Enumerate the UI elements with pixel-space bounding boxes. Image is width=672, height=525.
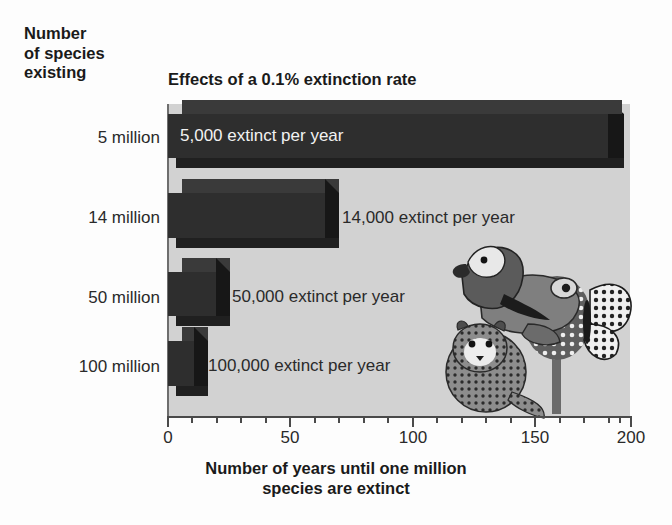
bar-1-top-face [182, 179, 339, 193]
bar-3 [168, 341, 194, 386]
x-tick-minor-180 [608, 416, 610, 423]
x-tick-minor-170 [583, 416, 585, 423]
x-tick-major-200 [630, 416, 632, 427]
x-tick-minor-60 [314, 416, 316, 423]
bar-3-front-face [168, 341, 194, 386]
bar-label-3: 100,000 extinct per year [208, 356, 390, 376]
x-tick-minor-140 [510, 416, 512, 423]
x-tick-label-150: 150 [521, 428, 549, 448]
x-tick-major-0 [167, 416, 169, 427]
bar-2-base-shadow [176, 316, 230, 326]
x-tick-label-50: 50 [281, 428, 300, 448]
endangered-species-illustration [424, 232, 636, 422]
x-tick-minor-90 [387, 416, 389, 423]
x-axis-title-line-2: species are extinct [0, 478, 672, 498]
x-tick-minor-70 [338, 416, 340, 423]
bar-1-top-right-bevel [325, 179, 339, 193]
x-tick-minor-80 [363, 416, 365, 423]
bar-1 [168, 193, 325, 238]
x-tick-major-50 [289, 416, 291, 427]
y-axis-title-line-2: of species [24, 44, 174, 64]
category-label-1: 14 million [10, 208, 160, 228]
bar-1-front-face [168, 193, 325, 238]
x-tick-major-150 [534, 416, 536, 427]
x-tick-label-200: 200 [617, 428, 645, 448]
x-axis-title: Number of years until one million specie… [0, 458, 672, 498]
x-tick-minor-130 [485, 416, 487, 423]
chart-title: Effects of a 0.1% extinction rate [168, 70, 417, 89]
bar-0-top-face [182, 100, 622, 114]
x-axis-title-line-1: Number of years until one million [0, 458, 672, 478]
x-tick-minor-10 [191, 416, 193, 423]
bar-1-side-face [325, 193, 339, 238]
x-tick-minor-120 [461, 416, 463, 423]
y-axis-title-line-3: existing [24, 63, 174, 83]
bar-label-1: 14,000 extinct per year [342, 208, 515, 228]
y-axis-title-line-1: Number [24, 24, 174, 44]
bar-2 [168, 272, 216, 316]
bar-label-2: 50,000 extinct per year [232, 287, 405, 307]
bar-2-front-face [168, 272, 216, 316]
bar-2-top-right-bevel [216, 258, 230, 272]
x-tick-minor-160 [559, 416, 561, 423]
x-tick-minor-20 [216, 416, 218, 423]
x-tick-major-100 [412, 416, 414, 427]
x-tick-label-0: 0 [163, 428, 172, 448]
bar-3-side-face [194, 341, 208, 386]
x-tick-minor-30 [240, 416, 242, 423]
bar-3-top-right-bevel [194, 327, 208, 341]
bar-0-side-face [608, 114, 624, 158]
bar-2-side-face [216, 272, 230, 316]
category-label-0: 5 million [10, 128, 160, 148]
bar-label-0: 5,000 extinct per year [180, 126, 343, 146]
x-tick-minor-40 [265, 416, 267, 423]
x-tick-minor-190 [619, 416, 621, 423]
bar-1-base-shadow [176, 238, 339, 248]
chart-figure: Number of species existing Effects of a … [0, 0, 672, 525]
y-axis-title: Number of species existing [24, 24, 174, 83]
bar-0-base-shadow [176, 158, 624, 168]
x-axis-line [167, 416, 631, 418]
category-label-2: 50 million [10, 288, 160, 308]
x-tick-label-100: 100 [399, 428, 427, 448]
x-tick-minor-110 [436, 416, 438, 423]
category-label-3: 100 million [10, 357, 160, 377]
bar-3-base-shadow [176, 386, 208, 396]
